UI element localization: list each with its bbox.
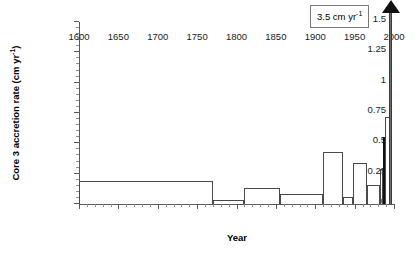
x-axis-tick-minor [95,204,96,207]
x-axis-tick-major [237,204,238,209]
y-axis-tick-major [74,21,79,22]
x-axis-tick-minor [378,204,379,207]
y-axis-title-exponent: -1 [9,49,16,55]
x-axis-tick-label: 1950 [344,31,365,42]
x-axis-tick-label: 1850 [265,31,286,42]
x-axis-title: Year [79,232,395,243]
spike-annotation-label: 3.5 cm yr-1 [310,5,369,28]
y-axis-tick-label: 0.75 [368,104,387,115]
x-axis-tick-minor [166,204,167,207]
y-axis-tick-minor [76,94,79,95]
bar-1966-1982 [367,185,380,204]
x-axis-tick-label: 1800 [226,31,247,42]
x-axis-tick-minor [205,204,206,207]
x-axis-tick-minor [126,204,127,207]
x-axis-tick-minor [87,204,88,207]
x-axis-tick-label: 1650 [108,31,129,42]
x-axis-tick-minor [284,204,285,207]
y-axis-tick-minor [76,154,79,155]
chart-figure: Core 3 accretion rate (cm yr-1) 00.250.5… [0,0,419,269]
y-axis-tick-major [74,82,79,83]
x-axis-tick-minor [150,204,151,207]
x-axis-tick-major [315,204,316,209]
x-axis-tick-major [118,204,119,209]
y-axis-title-text: Core 3 accretion rate (cm yr [10,55,21,181]
y-axis-tick-minor [76,179,79,180]
y-axis-tick-major [74,142,79,143]
x-axis-tick-major [276,204,277,209]
y-axis-tick-label: 1.5 [373,13,386,24]
x-axis-tick-label: 1700 [147,31,168,42]
y-axis-tick-minor [76,167,79,168]
y-axis-tick-minor [76,106,79,107]
bar-1855-1910 [280,194,323,204]
bar-1910-1935 [323,152,343,204]
bar-1810-1855 [244,188,279,204]
y-axis-tick-minor [76,27,79,28]
y-axis-tick-major [74,173,79,174]
x-axis-tick-major [197,204,198,209]
x-axis-tick-major [355,204,356,209]
x-axis-tick-minor [260,204,261,207]
x-axis-tick-minor [323,204,324,207]
y-axis-tick-minor [76,124,79,125]
x-axis-tick-minor [252,204,253,207]
y-axis-tick-minor [76,148,79,149]
x-axis-tick-minor [134,204,135,207]
up-arrow-icon [382,0,400,13]
x-axis-tick-minor [142,204,143,207]
y-axis-tick-major [74,112,79,113]
x-axis-tick-label: 2000 [383,31,404,42]
x-axis-tick-minor [331,204,332,207]
x-axis-tick-minor [221,204,222,207]
x-axis-tick-minor [363,204,364,207]
y-axis-tick-minor [76,88,79,89]
y-axis-title-suffix: ) [10,45,21,48]
x-axis-tick-minor [292,204,293,207]
x-axis-tick-minor [300,204,301,207]
y-axis-tick-minor [76,130,79,131]
x-axis-tick-label: 1600 [68,31,89,42]
bar-1935-1948 [343,197,353,204]
bar-1770-1810 [213,200,245,204]
y-axis-tick-minor [76,63,79,64]
x-axis-tick-minor [189,204,190,207]
x-axis-tick-minor [268,204,269,207]
y-axis-tick-minor [76,136,79,137]
x-axis-tick-minor [174,204,175,207]
x-axis-tick-major [394,204,395,209]
x-axis-tick-minor [111,204,112,207]
y-axis-tick-minor [76,118,79,119]
x-axis-tick-major [79,204,80,209]
y-axis-title: Core 3 accretion rate (cm yr-1) [6,22,20,204]
x-axis-tick-minor [347,204,348,207]
x-axis-tick-minor [103,204,104,207]
x-axis-tick-minor [229,204,230,207]
x-axis-tick-minor [181,204,182,207]
y-axis-tick-minor [76,100,79,101]
x-axis-tick-major [158,204,159,209]
x-axis-tick-minor [213,204,214,207]
spike-annotation-text: 3.5 cm yr [317,11,356,22]
x-axis-tick-label: 1900 [305,31,326,42]
y-axis-tick-minor [76,70,79,71]
offscale-accretion-spike [389,12,392,204]
y-axis-tick-major [74,51,79,52]
y-axis-tick-minor [76,76,79,77]
x-axis-tick-minor [370,204,371,207]
bar-1600-1770 [79,181,213,204]
y-axis-tick-label: 1 [381,73,386,84]
y-axis-tick-minor [76,45,79,46]
x-axis-tick-minor [244,204,245,207]
y-axis-tick-minor [76,57,79,58]
y-axis-tick-minor [76,161,79,162]
bar-1948-1966 [353,163,367,204]
y-axis-tick-label: 1.25 [368,43,387,54]
x-axis-tick-minor [386,204,387,207]
x-axis-tick-minor [339,204,340,207]
plot-area: 00.250.50.7511.251.516001650170017501800… [79,22,394,204]
x-axis-tick-label: 1750 [187,31,208,42]
x-axis-tick-minor [307,204,308,207]
spike-annotation-exponent: -1 [356,10,362,17]
